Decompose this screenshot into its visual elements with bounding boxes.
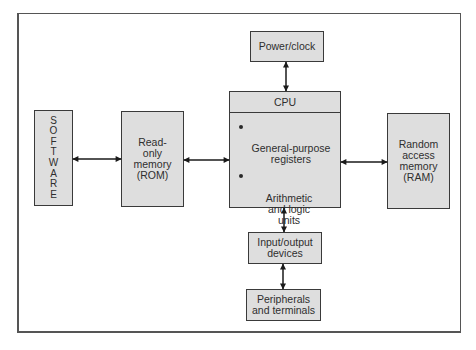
connector-arrows: [0, 0, 476, 350]
